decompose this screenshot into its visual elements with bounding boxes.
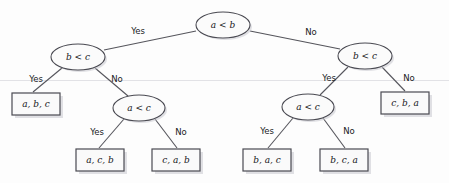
leaf-cab-label: c, a, b [162,155,190,165]
leaf-cba-label: c, b, a [391,98,419,108]
leaf-acb-label: a, c, b [86,155,114,165]
edge-label-right-bc-yes: Yes [321,73,336,83]
tree-canvas: a, b, c a, c, b c, a, b b, a, c b, c, a … [0,0,449,183]
leaf-group: a, b, c a, c, b c, a, b b, a, c b, c, a … [12,92,432,174]
node-right-ac-label: a < c [296,102,320,112]
edge-left-ac-to-leaf-cab [155,119,177,148]
edge-label-left-ac-no: No [175,127,187,137]
edge-label-left-bc-yes: Yes [28,74,43,84]
edge-label-right-ac-yes: Yes [259,126,274,136]
node-right-bc-label: b < c [353,51,377,61]
edge-label-right-bc-no: No [403,73,415,83]
edge-root-to-right-bc [250,31,340,49]
node-left-bc-label: b < c [66,52,90,62]
edge-label-left-ac-yes: Yes [89,127,104,137]
edge-root-to-left-bc [104,31,196,50]
edge-right-ac-to-leaf-bca [323,118,345,148]
node-group: a < b b < c b < c a < c a < c [51,12,394,123]
leaf-bca-label: b, c, a [330,155,358,165]
edge-label-root-no: No [305,27,317,37]
node-left-ac-label: a < c [127,103,151,113]
edge-label-left-bc-no: No [111,74,123,84]
edge-label-right-ac-no: No [343,126,355,136]
edge-right-bc-to-leaf-cba [382,67,405,91]
decision-tree-diagram: a, b, c a, c, b c, a, b b, a, c b, c, a … [0,0,449,183]
leaf-bac-label: b, a, c [253,155,281,165]
leaf-abc-label: a, b, c [22,99,50,109]
node-root-label: a < b [211,20,236,30]
edge-label-root-yes: Yes [130,26,145,36]
